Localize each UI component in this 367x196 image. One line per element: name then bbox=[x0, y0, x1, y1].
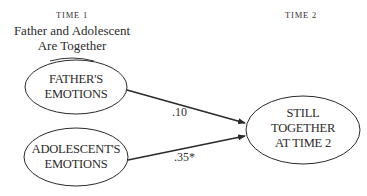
time1-condition-line1: Father and Adolescent bbox=[2, 24, 142, 37]
adolescent-path-coefficient: .35* bbox=[174, 151, 195, 163]
father-path-coefficient: .10 bbox=[172, 106, 187, 118]
time1-label: TIME 1 bbox=[52, 11, 92, 20]
still-together-line1: STILL bbox=[253, 106, 353, 121]
adolescent-emotions-line1: ADOLESCENT'S bbox=[24, 142, 128, 157]
father-emotions-node: FATHER'S EMOTIONS bbox=[26, 72, 126, 102]
path-diagram: TIME 1 Father and Adolescent Are Togethe… bbox=[0, 0, 367, 196]
still-together-line2: TOGETHER bbox=[253, 121, 353, 136]
time2-label: TIME 2 bbox=[279, 11, 323, 20]
father-emotions-line1: FATHER'S bbox=[26, 72, 126, 87]
still-together-line3: AT TIME 2 bbox=[253, 136, 353, 151]
still-together-node: STILL TOGETHER AT TIME 2 bbox=[253, 106, 353, 151]
father-emotions-line2: EMOTIONS bbox=[26, 87, 126, 102]
adolescent-emotions-node: ADOLESCENT'S EMOTIONS bbox=[24, 142, 128, 172]
adolescent-emotions-line2: EMOTIONS bbox=[24, 157, 128, 172]
time1-condition-line2: Are Together bbox=[2, 39, 142, 52]
